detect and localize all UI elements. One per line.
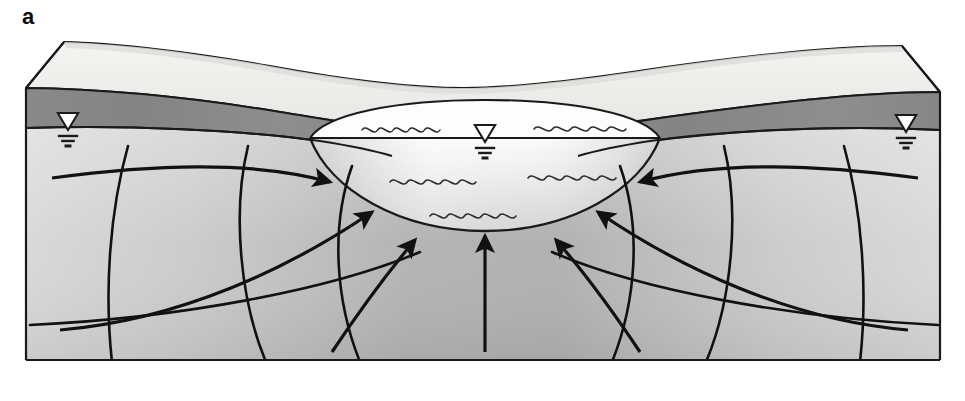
figure-root: a (0, 0, 965, 401)
block-diagram-svg (0, 0, 965, 401)
